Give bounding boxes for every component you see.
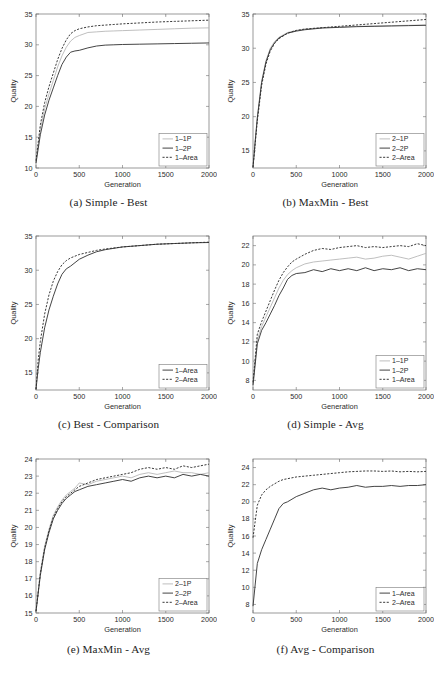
legend-label-2: 2–2P (392, 145, 409, 152)
figure-sheet: 1015202530350500100015002000GenerationQu… (0, 0, 434, 675)
x-tick-label: 1500 (375, 392, 391, 401)
x-tick-label: 0 (34, 615, 38, 624)
x-tick-label: 2000 (418, 615, 434, 624)
x-tick-label: 2000 (201, 392, 217, 401)
x-tick-label: 2000 (201, 170, 217, 179)
x-tick-label: 2000 (201, 615, 217, 624)
x-axis-label: Generation (104, 180, 141, 189)
y-tick-label: 10 (242, 583, 250, 592)
y-tick-label: 14 (242, 549, 250, 558)
y-tick-label: 10 (242, 357, 250, 366)
x-tick-label: 1000 (332, 615, 348, 624)
y-tick-label: 20 (25, 102, 33, 111)
y-tick-label: 10 (25, 164, 33, 173)
x-tick-label: 0 (251, 615, 255, 624)
figure-panel-a: 1015202530350500100015002000GenerationQu… (0, 0, 217, 223)
y-tick-label: 15 (25, 609, 33, 618)
y-tick-label: 25 (25, 71, 33, 80)
plot-area-f: 810121416182022240500100015002000Generat… (217, 445, 434, 643)
x-tick-label: 0 (34, 392, 38, 401)
x-tick-label: 1000 (332, 170, 348, 179)
y-tick-label: 35 (25, 232, 33, 241)
y-tick-label: 8 (246, 600, 250, 609)
legend-label-2: 2–2P (175, 590, 192, 597)
y-tick-label: 12 (242, 566, 250, 575)
x-tick-label: 0 (251, 392, 255, 401)
y-tick-label: 30 (25, 266, 33, 275)
x-tick-label: 1500 (375, 615, 391, 624)
y-tick-label: 16 (242, 299, 250, 308)
figure-panel-b: 15202530350500100015002000GenerationQual… (217, 0, 434, 223)
plot-area-e: 151617181920212223240500100015002000Gene… (0, 445, 217, 643)
y-tick-label: 8 (246, 376, 250, 385)
x-tick-label: 1500 (375, 170, 391, 179)
chart-a: 1015202530350500100015002000GenerationQu… (0, 0, 217, 198)
y-tick-label: 16 (242, 532, 250, 541)
y-axis-label: Quality (226, 79, 235, 102)
x-tick-label: 500 (73, 170, 85, 179)
legend-label-2: 1–2P (175, 145, 192, 152)
y-tick-label: 20 (242, 112, 250, 121)
series-line-2 (253, 471, 426, 538)
y-tick-label: 20 (25, 523, 33, 532)
x-tick-label: 0 (34, 170, 38, 179)
figure-caption-c: (c) Best - Comparison (0, 418, 217, 430)
y-tick-label: 22 (242, 480, 250, 489)
plot-area-b: 15202530350500100015002000GenerationQual… (217, 0, 434, 198)
plot-area-c: 15202530350500100015002000GenerationQual… (0, 222, 217, 420)
x-axis-label: Generation (104, 402, 141, 411)
x-tick-label: 2000 (418, 170, 434, 179)
y-tick-label: 25 (242, 78, 250, 87)
figure-caption-e: (e) MaxMin - Avg (0, 643, 217, 655)
y-tick-label: 12 (242, 337, 250, 346)
y-tick-label: 25 (25, 300, 33, 309)
x-tick-label: 500 (290, 615, 302, 624)
chart-b: 15202530350500100015002000GenerationQual… (217, 0, 434, 198)
y-tick-label: 24 (242, 463, 250, 472)
legend-label-3: 1–Area (392, 376, 415, 383)
legend-label-1: 1–Area (175, 367, 198, 374)
y-axis-label: Quality (9, 301, 18, 324)
x-axis-label: Generation (321, 625, 358, 634)
x-tick-label: 500 (73, 615, 85, 624)
legend-label-1: 1–Area (392, 590, 415, 597)
x-tick-label: 500 (73, 392, 85, 401)
y-tick-label: 30 (242, 44, 250, 53)
x-tick-label: 2000 (418, 392, 434, 401)
figure-panel-f: 810121416182022240500100015002000Generat… (217, 445, 434, 668)
y-tick-label: 30 (25, 40, 33, 49)
y-tick-label: 19 (25, 540, 33, 549)
x-tick-label: 1500 (158, 615, 174, 624)
x-axis-label: Generation (321, 180, 358, 189)
y-tick-label: 15 (25, 368, 33, 377)
y-tick-label: 18 (242, 514, 250, 523)
figure-caption-b: (b) MaxMin - Best (217, 196, 434, 208)
x-tick-label: 500 (290, 392, 302, 401)
y-tick-label: 35 (242, 10, 250, 19)
figure-panel-d: 8101214161820220500100015002000Generatio… (217, 222, 434, 445)
x-tick-label: 1500 (158, 170, 174, 179)
figure-caption-a: (a) Simple - Best (0, 196, 217, 208)
chart-e: 151617181920212223240500100015002000Gene… (0, 445, 217, 643)
chart-f: 810121416182022240500100015002000Generat… (217, 445, 434, 643)
legend-label-3: 2–Area (392, 154, 415, 161)
legend-label-1: 1–1P (175, 135, 192, 142)
legend-label-2: 2–Area (392, 599, 415, 606)
y-tick-label: 22 (242, 241, 250, 250)
legend-label-1: 2–1P (175, 580, 192, 587)
y-tick-label: 24 (25, 455, 33, 464)
x-tick-label: 500 (290, 170, 302, 179)
x-axis-label: Generation (321, 402, 358, 411)
y-tick-label: 20 (25, 334, 33, 343)
y-tick-label: 14 (242, 318, 250, 327)
legend-label-2: 1–2P (392, 367, 409, 374)
x-tick-label: 1000 (332, 392, 348, 401)
y-tick-label: 18 (242, 280, 250, 289)
legend-label-3: 2–Area (175, 599, 198, 606)
figure-caption-f: (f) Avg - Comparison (217, 643, 434, 655)
plot-area-a: 1015202530350500100015002000GenerationQu… (0, 0, 217, 198)
y-tick-label: 23 (25, 472, 33, 481)
figure-caption-d: (d) Simple - Avg (217, 418, 434, 430)
y-tick-label: 15 (25, 133, 33, 142)
y-tick-label: 17 (25, 574, 33, 583)
